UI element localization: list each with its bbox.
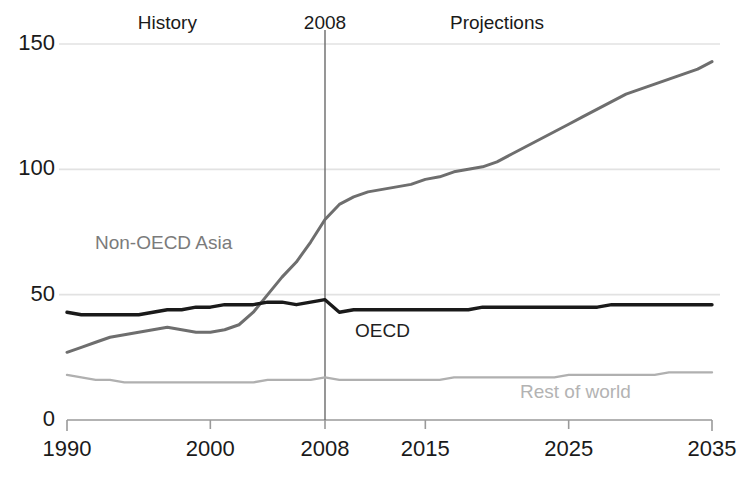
x-tick-label-2000: 2000 bbox=[160, 436, 260, 462]
y-tick-label-0: 0 bbox=[43, 406, 55, 432]
annotation-divider-year: 2008 bbox=[245, 12, 405, 34]
series-label-rest-of-world: Rest of world bbox=[520, 381, 631, 403]
x-tick-label-2008: 2008 bbox=[275, 436, 375, 462]
series-label-oecd: OECD bbox=[355, 320, 410, 342]
y-tick-label-100: 100 bbox=[18, 155, 55, 181]
annotation-projections: Projections bbox=[417, 12, 577, 34]
x-tick-label-2015: 2015 bbox=[375, 436, 475, 462]
x-axis bbox=[67, 420, 712, 431]
y-tick-label-150: 150 bbox=[18, 30, 55, 56]
annotation-history: History bbox=[87, 12, 247, 34]
x-tick-label-1990: 1990 bbox=[17, 436, 117, 462]
chart-container: 150 100 50 0 1990 2000 2008 2015 2025 20… bbox=[0, 0, 745, 479]
series-label-non-oecd-asia: Non-OECD Asia bbox=[95, 232, 232, 254]
gridlines bbox=[59, 44, 720, 295]
x-tick-label-2035: 2035 bbox=[662, 436, 745, 462]
y-tick-label-50: 50 bbox=[31, 281, 55, 307]
x-tick-label-2025: 2025 bbox=[519, 436, 619, 462]
